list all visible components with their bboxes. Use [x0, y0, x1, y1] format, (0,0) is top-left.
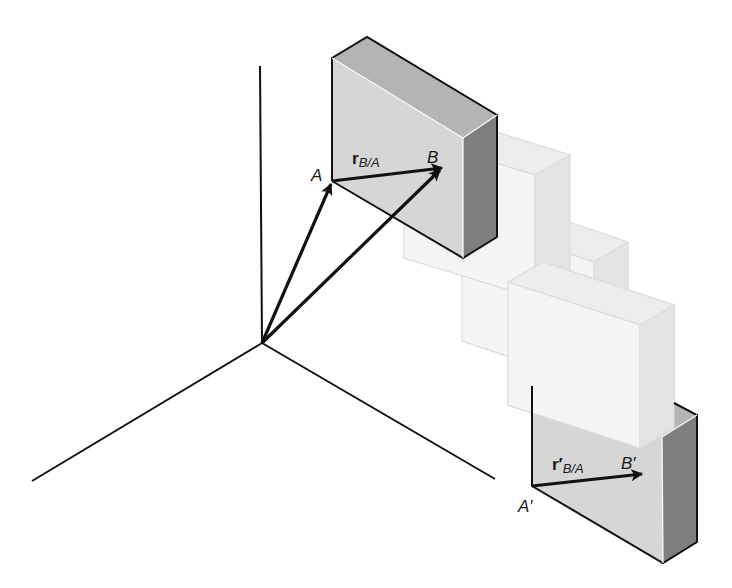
- label-vector-r-b-a-sub: B/A: [359, 155, 380, 170]
- label-point-a-prime: A′: [517, 497, 533, 516]
- block-final-position: [508, 262, 697, 563]
- axis-left: [32, 343, 262, 481]
- rigid-body-translation-diagram: A B rB/A A′ B′ r′B/A: [0, 0, 732, 588]
- label-vector-r-prime-b-a-sub: B/A: [563, 461, 584, 476]
- block-initial-position: [332, 37, 497, 258]
- label-point-a: A: [310, 166, 322, 185]
- label-point-b-prime: B′: [621, 454, 636, 473]
- axis-right: [262, 343, 495, 479]
- label-vector-r-prime-b-a-main: r′: [552, 455, 563, 474]
- axis-vertical: [260, 66, 262, 343]
- vector-r-a: [262, 184, 331, 343]
- label-point-b: B: [427, 148, 438, 167]
